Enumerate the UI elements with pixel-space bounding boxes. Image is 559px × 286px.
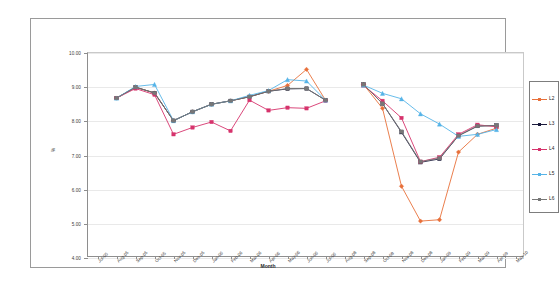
series-l6 bbox=[115, 83, 498, 164]
data-point-marker bbox=[495, 124, 498, 127]
chart-frame: % 10.009.008.007.006.005.004.00Jul-05Aug… bbox=[30, 18, 506, 268]
series-line bbox=[117, 89, 326, 135]
data-point-marker bbox=[324, 98, 327, 101]
legend-item-l2[interactable]: L2 bbox=[532, 87, 556, 112]
data-point-marker bbox=[267, 109, 270, 112]
y-axis-tick bbox=[84, 121, 88, 122]
y-axis-tick-label: 5.00 bbox=[72, 221, 81, 226]
legend-item-l3[interactable]: L3 bbox=[532, 112, 556, 137]
legend-item-l5[interactable]: L5 bbox=[532, 162, 556, 187]
plot-area: 10.009.008.007.006.005.004.00Jul-05Aug-0… bbox=[87, 52, 524, 257]
legend-item-label: L3 bbox=[549, 122, 554, 127]
data-point-marker bbox=[381, 102, 384, 105]
series-l4 bbox=[115, 84, 498, 164]
y-axis-tick-label: 7.00 bbox=[72, 153, 81, 158]
legend-item-label: L2 bbox=[549, 97, 554, 102]
data-point-marker bbox=[115, 96, 118, 99]
data-point-marker bbox=[153, 91, 156, 94]
data-point-marker bbox=[172, 133, 175, 136]
legend-item-l4[interactable]: L4 bbox=[532, 137, 556, 162]
series-lines bbox=[88, 53, 525, 258]
x-axis-title: Month bbox=[31, 263, 505, 269]
data-point-marker bbox=[229, 129, 232, 132]
data-point-marker bbox=[210, 103, 213, 106]
data-point-marker bbox=[134, 85, 137, 88]
legend-item-label: L4 bbox=[549, 147, 554, 152]
y-axis-tick-label: 4.00 bbox=[72, 256, 81, 261]
series-l2 bbox=[114, 67, 498, 223]
y-axis-tick bbox=[84, 156, 88, 157]
y-axis-title: % bbox=[51, 148, 56, 152]
legend-swatch-icon bbox=[532, 196, 547, 203]
chart-legend: L2L3L4L5L6 bbox=[529, 81, 559, 213]
data-point-marker bbox=[191, 126, 194, 129]
data-point-marker bbox=[438, 157, 441, 160]
y-axis-tick bbox=[84, 224, 88, 225]
data-point-marker bbox=[476, 124, 479, 127]
data-point-marker bbox=[437, 122, 441, 126]
data-point-marker bbox=[229, 99, 232, 102]
legend-item-label: L6 bbox=[549, 197, 554, 202]
data-point-marker bbox=[210, 120, 213, 123]
data-point-marker bbox=[400, 130, 403, 133]
data-point-marker bbox=[399, 184, 403, 188]
y-axis-tick bbox=[84, 87, 88, 88]
legend-item-label: L5 bbox=[549, 172, 554, 177]
series-l3 bbox=[115, 83, 498, 164]
y-axis-tick-label: 10.00 bbox=[69, 51, 81, 56]
data-point-marker bbox=[191, 110, 194, 113]
legend-swatch-icon bbox=[532, 146, 547, 153]
y-axis-tick-label: 8.00 bbox=[72, 119, 81, 124]
data-point-marker bbox=[419, 160, 422, 163]
data-point-marker bbox=[305, 107, 308, 110]
data-point-marker bbox=[400, 116, 403, 119]
data-point-marker bbox=[362, 83, 365, 86]
y-axis-tick-label: 6.00 bbox=[72, 187, 81, 192]
y-axis-tick bbox=[84, 53, 88, 54]
data-point-marker bbox=[248, 98, 251, 101]
data-point-marker bbox=[248, 95, 251, 98]
data-point-marker bbox=[267, 90, 270, 93]
legend-item-l6[interactable]: L6 bbox=[532, 187, 556, 212]
data-point-marker bbox=[305, 87, 308, 90]
legend-swatch-icon bbox=[532, 96, 547, 103]
data-point-marker bbox=[286, 87, 289, 90]
data-point-marker bbox=[457, 134, 460, 137]
series-line bbox=[117, 69, 326, 120]
data-point-marker bbox=[437, 218, 441, 222]
legend-swatch-icon bbox=[532, 121, 547, 128]
data-point-marker bbox=[172, 119, 175, 122]
y-axis-tick bbox=[84, 190, 88, 191]
y-axis-tick-label: 9.00 bbox=[72, 85, 81, 90]
series-line bbox=[117, 80, 326, 121]
data-point-marker bbox=[286, 106, 289, 109]
data-point-marker bbox=[418, 219, 422, 223]
y-axis-tick bbox=[84, 258, 88, 259]
legend-swatch-icon bbox=[532, 171, 547, 178]
